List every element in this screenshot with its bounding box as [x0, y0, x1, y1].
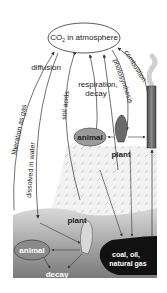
fossil-label-line1: coal, oil,: [112, 251, 140, 259]
respiration-label-2: decay: [85, 89, 106, 98]
water-decay-label: decay: [46, 270, 69, 279]
carbon-cycle-diagram: CO2 in atmosphere animal plant plant ani…: [0, 0, 167, 293]
chimney-icon: [147, 86, 156, 148]
respiration-label-1: respiration,: [78, 80, 118, 89]
land-animal-label: animal: [77, 133, 102, 142]
atmosphere-label: CO2 in atmosphere: [50, 33, 118, 43]
water-plant-label: plant: [67, 216, 86, 225]
smoke-icon: [149, 56, 155, 86]
land-plant-label: plant: [111, 150, 130, 159]
water-animal-label: animal: [19, 246, 44, 255]
land-plant-icon: [115, 115, 127, 142]
diffusion-label: diffusion: [31, 63, 61, 72]
fossil-label-line2: natural gas: [109, 260, 146, 268]
soil-acids-label: soil acids: [60, 90, 70, 120]
liberation-label: liberation as gas: [10, 103, 29, 155]
dissolved-label: dissolved in water: [25, 141, 36, 198]
